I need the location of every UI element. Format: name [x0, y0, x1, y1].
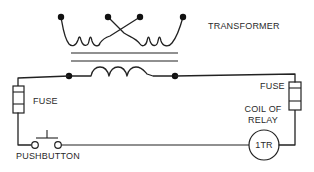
fuse-left: [13, 86, 24, 113]
coil-label-line2: RELAY: [248, 115, 278, 125]
wire-right-lower: [279, 110, 295, 145]
transformer-terminal-2: [105, 14, 111, 20]
transformer-label: TRANSFORMER: [208, 21, 280, 31]
circuit-diagram: TRANSFORMER FUSE FUSE COIL OF RELAY 1TR …: [0, 0, 314, 172]
relay-id-label: 1TR: [255, 140, 273, 150]
fuse-right-label: FUSE: [260, 81, 285, 91]
transformer-secondary-winding: [69, 67, 175, 76]
transformer-terminal-3: [137, 14, 143, 20]
fuse-right: [289, 82, 301, 110]
pushbutton: [32, 130, 62, 148]
wire-left: [18, 76, 69, 86]
coil-label-line1: COIL OF: [244, 104, 281, 114]
fuse-left-label: FUSE: [33, 96, 58, 106]
transformer-terminal-4: [180, 14, 186, 20]
transformer-primary-winding: [61, 17, 183, 46]
pushbutton-label: PUSHBUTTON: [16, 151, 80, 161]
wire-left-lower: [18, 113, 31, 145]
transformer-terminal-1: [58, 14, 64, 20]
